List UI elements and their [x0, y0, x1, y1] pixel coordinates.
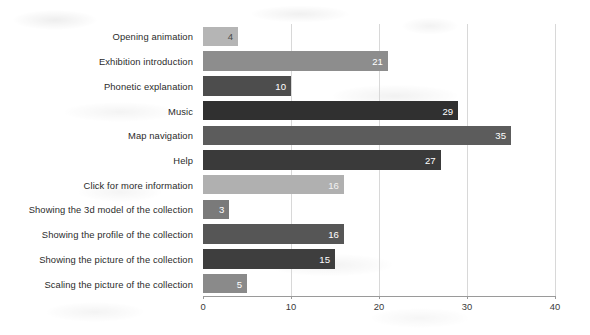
- bar-value-label: 27: [425, 154, 436, 165]
- category-label: Opening animation: [113, 31, 193, 42]
- bar-row: Phonetic explanation10: [203, 73, 555, 98]
- category-label: Scaling the picture of the collection: [44, 278, 193, 289]
- x-axis-tick-label: 10: [286, 301, 296, 312]
- bar-value-label: 21: [372, 56, 383, 67]
- bar: 29: [203, 101, 458, 121]
- bar-row: Click for more information16: [203, 172, 555, 197]
- x-axis-tick-label: 0: [200, 301, 205, 312]
- bar-row: Showing the profile of the collection16: [203, 222, 555, 247]
- x-axis-tick-label: 40: [550, 301, 560, 312]
- x-axis-tick-mark: [203, 296, 204, 299]
- category-label: Map navigation: [128, 130, 193, 141]
- category-label: Help: [173, 154, 193, 165]
- bar: 5: [203, 274, 247, 294]
- bar-row: Help27: [203, 148, 555, 173]
- bar-value-label: 10: [275, 80, 286, 91]
- category-label: Phonetic explanation: [104, 80, 193, 91]
- bar-value-label: 15: [319, 253, 330, 264]
- bar-value-label: 4: [228, 31, 233, 42]
- category-label: Click for more information: [84, 179, 193, 190]
- category-label: Showing the 3d model of the collection: [29, 204, 193, 215]
- bar-row: Exhibition introduction21: [203, 49, 555, 74]
- x-axis-tick-mark: [291, 296, 292, 299]
- bar: 16: [203, 175, 344, 195]
- gridline: [555, 24, 556, 296]
- bar-value-label: 3: [219, 204, 224, 215]
- bar-row: Showing the picture of the collection15: [203, 247, 555, 272]
- bar-row: Map navigation35: [203, 123, 555, 148]
- bar-row: Showing the 3d model of the collection3: [203, 197, 555, 222]
- bar-row: Opening animation4: [203, 24, 555, 49]
- bar-value-label: 16: [328, 179, 339, 190]
- bar-row: Scaling the picture of the collection5: [203, 271, 555, 296]
- bar-value-label: 35: [495, 130, 506, 141]
- bar: 15: [203, 249, 335, 269]
- bar-row: Music29: [203, 98, 555, 123]
- x-axis-tick-mark: [467, 296, 468, 299]
- category-label: Showing the picture of the collection: [39, 253, 193, 264]
- horizontal-bar-chart: Opening animation4Exhibition introductio…: [0, 0, 590, 335]
- bar: 27: [203, 150, 441, 170]
- plot-area: Opening animation4Exhibition introductio…: [203, 24, 555, 296]
- category-label: Exhibition introduction: [99, 56, 193, 67]
- bar: 4: [203, 27, 238, 47]
- bar: 21: [203, 51, 388, 71]
- bar: 35: [203, 126, 511, 146]
- bar-value-label: 16: [328, 229, 339, 240]
- x-axis-tick-label: 30: [462, 301, 472, 312]
- x-axis-tick-mark: [379, 296, 380, 299]
- category-label: Music: [168, 105, 193, 116]
- bar: 10: [203, 76, 291, 96]
- x-axis-tick-mark: [555, 296, 556, 299]
- category-label: Showing the profile of the collection: [42, 229, 193, 240]
- bar: 16: [203, 224, 344, 244]
- x-axis-tick-label: 20: [374, 301, 384, 312]
- bar-value-label: 29: [443, 105, 454, 116]
- bar-value-label: 5: [237, 278, 242, 289]
- bar: 3: [203, 200, 229, 220]
